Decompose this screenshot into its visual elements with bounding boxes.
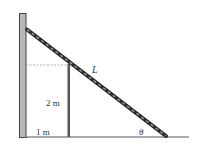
post-height-label: 2 m	[46, 98, 60, 108]
ladder	[27, 30, 166, 137]
wall	[20, 14, 27, 138]
post-distance-label: 1 m	[36, 127, 50, 137]
fence-post	[68, 64, 71, 137]
angle-label: θ	[139, 127, 144, 137]
ladder-diagram: L 2 m 1 m θ	[0, 0, 203, 150]
ladder-length-label: L	[91, 64, 98, 75]
